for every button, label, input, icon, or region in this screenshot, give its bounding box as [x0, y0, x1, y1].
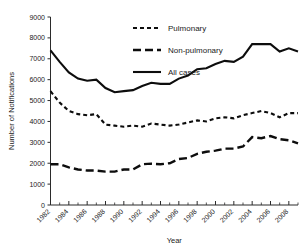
y-tick-label: 0 [41, 202, 45, 209]
x-tick-label: 1982 [35, 208, 51, 224]
x-tick-label: 2002 [219, 208, 235, 224]
y-tick-label: 2000 [29, 160, 45, 167]
x-tick-label: 2004 [237, 208, 253, 224]
legend-label-all-cases: All cases [168, 68, 200, 77]
x-tick-label: 1998 [182, 208, 198, 224]
y-tick-label: 3000 [29, 139, 45, 146]
x-tick-label: 2006 [255, 208, 271, 224]
y-tick-label: 9000 [29, 14, 45, 21]
x-axis-ticks [51, 201, 299, 205]
chart-figure: 0100020003000400050006000700080009000 19… [0, 0, 306, 248]
y-tick-label: 8000 [29, 34, 45, 41]
series-line-non-pulmonary [51, 136, 299, 172]
x-tick-label: 1992 [127, 208, 143, 224]
y-tick-label: 6000 [29, 76, 45, 83]
y-axis: 0100020003000400050006000700080009000 [29, 14, 50, 209]
y-axis-title: Number of Notifications [7, 72, 16, 150]
series-line-pulmonary [51, 91, 299, 127]
legend-label-non-pulmonary: Non-pulmonary [168, 46, 223, 55]
line-chart: 0100020003000400050006000700080009000 19… [0, 0, 306, 248]
x-tick-label: 2000 [200, 208, 216, 224]
y-tick-label: 7000 [29, 55, 45, 62]
x-tick-label: 1986 [72, 208, 88, 224]
x-tick-label: 1996 [164, 208, 180, 224]
y-tick-label: 4000 [29, 118, 45, 125]
chart-series-group [51, 44, 299, 171]
x-tick-label: 1988 [90, 208, 106, 224]
x-tick-label: 1994 [145, 208, 161, 224]
x-tick-label: 2008 [274, 208, 290, 224]
x-axis-title: Year [167, 236, 183, 245]
x-axis-tick-labels: 1982198419861988199019921994199619982000… [35, 208, 289, 224]
x-tick-label: 1990 [109, 208, 125, 224]
y-tick-label: 5000 [29, 97, 45, 104]
legend-label-pulmonary: Pulmonary [168, 24, 206, 33]
y-tick-label: 1000 [29, 181, 45, 188]
y-axis-tick-labels: 0100020003000400050006000700080009000 [29, 14, 45, 209]
chart-legend: PulmonaryNon-pulmonaryAll cases [133, 24, 223, 77]
x-tick-label: 1984 [54, 208, 70, 224]
x-axis: 1982198419861988199019921994199619982000… [35, 201, 298, 224]
